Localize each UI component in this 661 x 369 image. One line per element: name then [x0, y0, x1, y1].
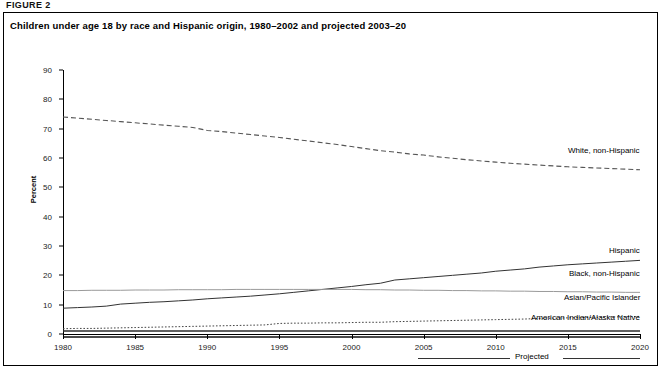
series-line	[63, 260, 640, 308]
projected-rule-left	[418, 358, 510, 359]
series-label: White, non-Hispanic	[568, 146, 640, 155]
figure-page: FIGURE 2 Children under age 18 by race a…	[0, 0, 661, 369]
projected-label: Projected	[515, 352, 549, 361]
series-label: Black, non-Hispanic	[569, 269, 640, 278]
projected-note: Projected	[63, 352, 640, 364]
projected-rule-right	[563, 358, 640, 359]
series-line	[63, 289, 640, 292]
series-label: American Indian/Alaska Native	[531, 313, 640, 322]
series-label: Hispanic	[609, 246, 640, 255]
series-label: Asian/Pacific Islander	[564, 293, 640, 302]
series-lines	[63, 117, 640, 331]
series-line	[63, 117, 640, 170]
